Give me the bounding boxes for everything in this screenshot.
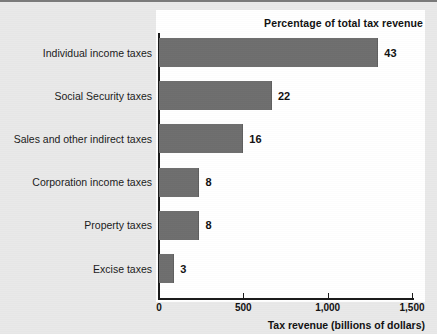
- bar-value-label: 8: [205, 219, 211, 231]
- bar-value-label: 43: [384, 47, 396, 59]
- category-label: Sales and other indirect taxes: [4, 133, 156, 145]
- category-label: Property taxes: [4, 219, 156, 231]
- x-axis-title: Tax revenue (billions of dollars): [180, 319, 425, 331]
- bar-value-label: 22: [278, 90, 290, 102]
- bar: [159, 211, 199, 240]
- bar-value-label: 8: [205, 176, 211, 188]
- bar: [159, 124, 243, 153]
- bar: [159, 168, 199, 197]
- x-tick-label: 500: [235, 302, 252, 313]
- category-label: Social Security taxes: [4, 90, 156, 102]
- category-label: Excise taxes: [4, 263, 156, 275]
- category-label: Individual income taxes: [4, 47, 156, 59]
- bar: [159, 38, 378, 67]
- x-tick-mark: [243, 293, 244, 299]
- percentage-header-label: Percentage of total tax revenue: [235, 17, 423, 29]
- x-tick-mark: [328, 293, 329, 299]
- category-label: Corporation income taxes: [4, 176, 156, 188]
- x-axis-line: [158, 298, 414, 300]
- x-tick-label: 1,500: [399, 302, 424, 313]
- x-tick-label: 0: [156, 302, 162, 313]
- bar: [159, 254, 174, 283]
- x-tick-mark: [412, 293, 413, 299]
- bar: [159, 81, 272, 110]
- bar-value-label: 16: [249, 133, 261, 145]
- bar-value-label: 3: [180, 263, 186, 275]
- chart-figure: Percentage of total tax revenue 43221688…: [0, 0, 437, 334]
- x-tick-label: 1,000: [315, 302, 340, 313]
